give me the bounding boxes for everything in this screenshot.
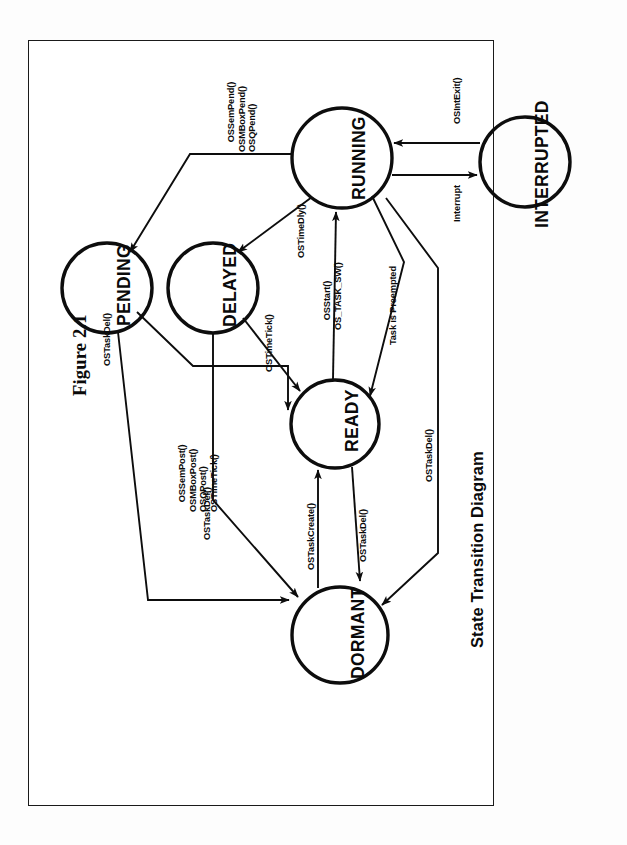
node-label-running: RUNNING — [350, 116, 370, 200]
edge-label-running-delayed: OSTimeDly() — [296, 204, 306, 258]
node-delayed-circle — [168, 243, 258, 333]
edge-label-running-dormant: OSTaskDel() — [424, 429, 434, 482]
edge-running-ready — [370, 196, 404, 396]
edge-label-delayed-dormant: OSTaskDel() — [202, 487, 212, 540]
node-label-ready: READY — [343, 389, 363, 452]
node-ready-circle — [291, 380, 379, 468]
node-label-pending: PENDING — [115, 244, 135, 326]
edge-label-running-pending: OSSemPend()OSMBoxPend()OSQPend() — [216, 82, 268, 152]
edge-label-ready-dormant: OSTaskDel() — [358, 509, 368, 562]
edge-label-interrupted-running: OSIntExit() — [452, 78, 462, 124]
node-interrupted-circle — [480, 117, 570, 207]
edge-label-pending-ready: OSSemPost()OSMBoxPost()OSQPost()OSTimeTi… — [167, 445, 229, 513]
edge-label-text: OSStart()OS_TASK_SW() — [322, 262, 342, 330]
figure-caption: State Transition Diagram — [468, 451, 486, 648]
edge-label-dormant-ready: OSTaskCreate() — [306, 503, 316, 570]
edge-label-ready-running: OSStart()OS_TASK_SW() — [312, 262, 354, 330]
node-dormant-circle — [292, 587, 388, 683]
node-running-circle — [292, 108, 392, 208]
edge-label-text: OSSemPend()OSMBoxPend()OSQPend() — [226, 82, 257, 152]
node-label-delayed: DELAYED — [221, 243, 241, 327]
figure-page: RUNNING INTERRUPTED PENDING DELAYED READ… — [0, 0, 627, 845]
state-nodes — [62, 108, 570, 683]
edge-running-dormant — [382, 198, 438, 605]
edge-label-running-interrupted: Interrupt — [452, 185, 462, 222]
edge-running-pending — [130, 154, 292, 252]
edge-label-delayed-ready: OSTimeTick() — [264, 314, 274, 372]
node-label-dormant: DORMANT — [349, 587, 369, 679]
edge-label-running-ready: Task is Preempted — [388, 266, 398, 345]
edge-label-text: OSSemPost()OSMBoxPost()OSQPost()OSTimeTi… — [177, 445, 218, 513]
node-label-interrupted: INTERRUPTED — [533, 100, 553, 228]
figure-title: Figure 2.1 — [70, 314, 91, 396]
edge-label-pending-dormant: OSTaskDel() — [102, 313, 112, 366]
